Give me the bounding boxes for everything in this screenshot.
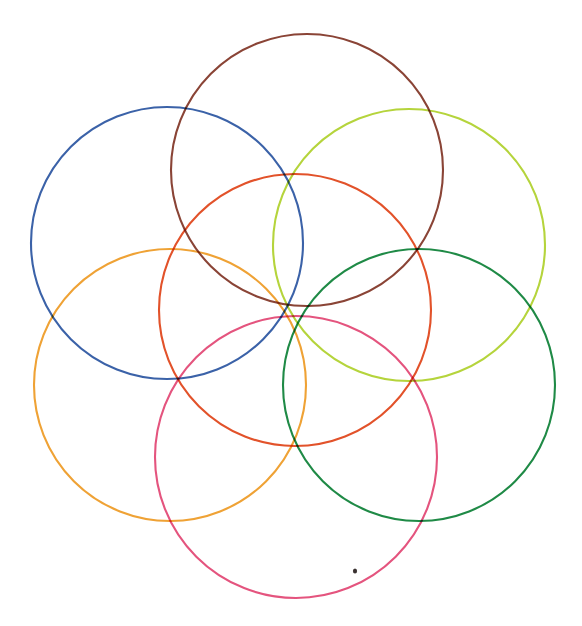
- rosette-diagram: [0, 0, 582, 626]
- figure-canvas: [0, 0, 582, 626]
- ink-speck-artifact: [353, 568, 357, 573]
